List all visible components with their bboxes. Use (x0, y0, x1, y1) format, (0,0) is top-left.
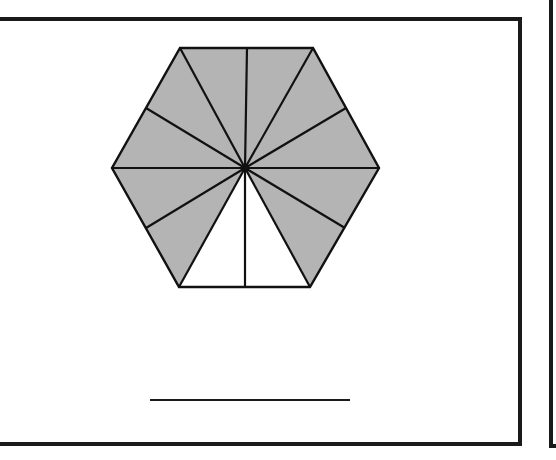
hexagon-fraction-diagram (112, 48, 379, 287)
center-dot (241, 164, 249, 172)
worksheet-canvas (0, 0, 556, 460)
adjacent-frame-border (551, 0, 556, 446)
